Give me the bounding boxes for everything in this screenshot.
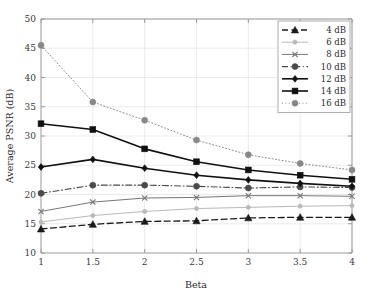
series-marker [245, 185, 251, 191]
series-marker [143, 209, 147, 213]
series-marker [298, 204, 302, 208]
legend-label-10-db: 10 dB [321, 62, 346, 72]
legend-label-6-db: 6 dB [326, 37, 346, 47]
series-marker [38, 190, 44, 196]
series-marker [245, 167, 251, 173]
legend-marker [292, 100, 298, 106]
x-tick-label: 2 [142, 257, 148, 267]
y-tick-label: 40 [25, 73, 37, 83]
legend-label-16-db: 16 dB [321, 98, 346, 108]
y-tick-label: 25 [25, 160, 37, 170]
x-axis-title: Beta [185, 279, 207, 290]
series-marker [297, 160, 303, 166]
legend-marker [293, 40, 297, 44]
x-tick-label: 2.5 [189, 257, 204, 267]
series-marker [194, 137, 200, 143]
legend-label-12-db: 12 dB [321, 74, 346, 84]
series-marker [297, 172, 303, 178]
series-marker [90, 99, 96, 105]
legend-label-4-db: 4 dB [326, 25, 346, 35]
y-axis-tick-labels: 101520253035404550 [25, 14, 37, 258]
series-marker [142, 146, 148, 152]
legend-label-14-db: 14 dB [321, 86, 346, 96]
y-tick-label: 50 [25, 14, 37, 24]
x-tick-label: 1.5 [86, 257, 101, 267]
psnr-line-chart: 101520253035404550 11.522.533.54 Beta Av… [0, 0, 371, 296]
y-tick-label: 15 [25, 219, 37, 229]
series-marker [90, 182, 96, 188]
series-marker [349, 176, 355, 182]
x-tick-label: 3.5 [293, 257, 308, 267]
y-tick-label: 10 [25, 248, 37, 258]
series-marker [194, 183, 200, 189]
legend: 4 dB6 dB8 dB10 dB12 dB14 dB16 dB [278, 21, 350, 112]
series-marker [39, 220, 43, 224]
y-tick-label: 35 [25, 102, 37, 112]
x-tick-label: 1 [38, 257, 44, 267]
series-marker [91, 213, 95, 217]
chart-figure: 101520253035404550 11.522.533.54 Beta Av… [0, 0, 371, 296]
series-marker [90, 127, 96, 133]
series-marker [142, 182, 148, 188]
series-marker [194, 206, 198, 210]
y-tick-label: 45 [25, 43, 37, 53]
series-marker [38, 42, 44, 48]
legend-marker [292, 88, 298, 94]
series-marker [350, 204, 354, 208]
series-marker [245, 152, 251, 158]
legend-label-8-db: 8 dB [326, 49, 346, 59]
series-marker [142, 117, 148, 123]
y-axis-title: Average PSNR (dB) [4, 89, 15, 184]
x-tick-label: 3 [245, 257, 251, 267]
x-tick-label: 4 [349, 257, 355, 267]
legend-marker [292, 64, 298, 70]
series-marker [194, 159, 200, 165]
y-tick-label: 30 [25, 131, 37, 141]
y-tick-label: 20 [25, 190, 37, 200]
series-marker [246, 205, 250, 209]
series-marker [349, 167, 355, 173]
series-marker [38, 121, 44, 127]
